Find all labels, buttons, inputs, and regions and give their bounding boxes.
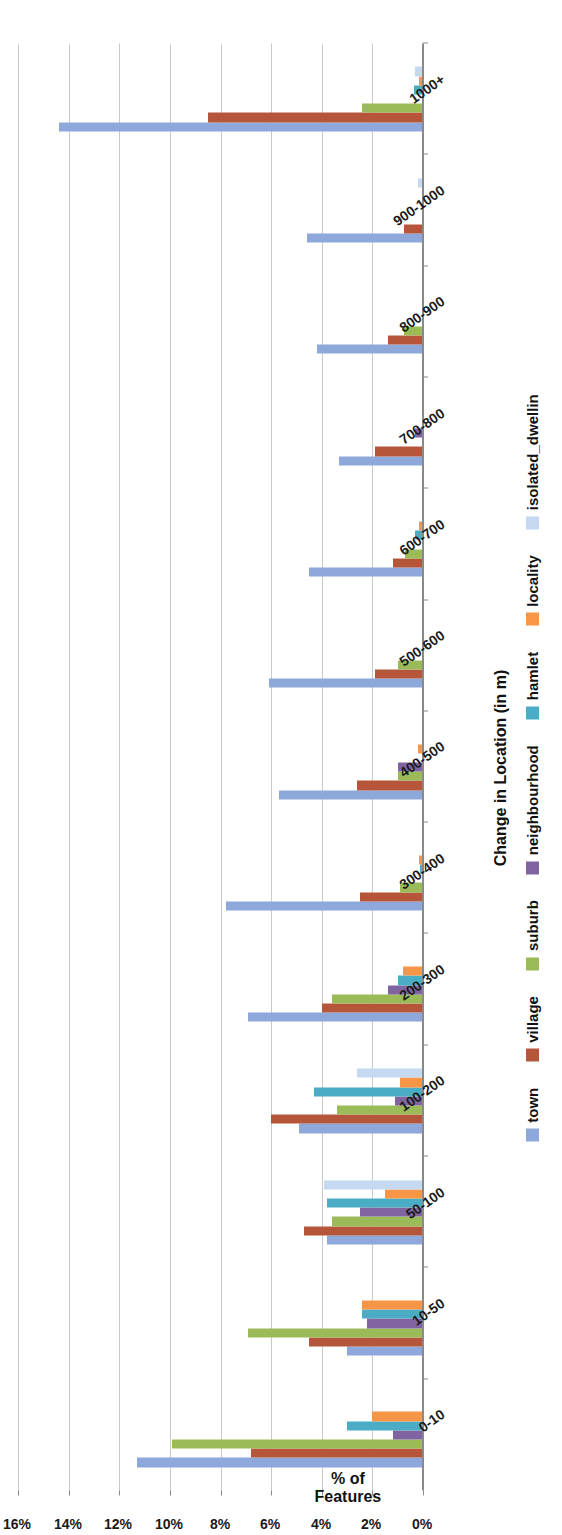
category-tick-mark [423,932,428,933]
bar-group [18,377,423,488]
y-axis-tick-mark [221,1490,222,1495]
legend-swatch-icon [526,516,539,529]
category-tick-mark [423,599,428,600]
bar-group [18,43,423,154]
legend-item-isolated_dwellin[interactable]: isolated_dwellin [524,394,541,529]
chart-page: 0%2%4%6%8%10%12%14%16%0-1010-5050-100100… [0,0,562,1535]
y-axis-tick-label: 14% [45,1515,91,1531]
legend-label: neighbourhood [524,745,541,855]
bar-group [18,933,423,1044]
bar-group [18,711,423,822]
legend-item-town[interactable]: town [524,1087,541,1141]
legend-item-hamlet[interactable]: hamlet [524,651,541,718]
y-axis-tick-label: 8% [197,1515,243,1531]
bar-town [279,790,423,799]
bar-chart-figure: 0%2%4%6%8%10%12%14%16%0-1010-5050-100100… [0,0,562,1535]
bar-group [18,1267,423,1378]
legend-label: town [524,1087,541,1122]
y-axis-tick-mark [119,1490,120,1495]
category-tick-mark [423,1266,428,1267]
bar-town [299,1123,423,1132]
legend-label: isolated_dwellin [524,394,541,510]
legend-swatch-icon [526,612,539,625]
legend-item-village[interactable]: village [524,996,541,1062]
legend-item-locality[interactable]: locality [524,555,541,626]
bar-locality [385,1189,423,1198]
category-tick-mark [423,821,428,822]
legend-item-suburb[interactable]: suburb [524,900,541,970]
category-tick-mark [423,1155,428,1156]
bar-isolated_dwellin [357,1068,423,1077]
legend-label: suburb [524,900,541,951]
category-tick-mark [423,153,428,154]
rotated-figure-wrapper: 0%2%4%6%8%10%12%14%16%0-1010-5050-100100… [0,0,562,1535]
legend-label: locality [524,555,541,607]
category-tick-mark [423,1378,428,1379]
legend-swatch-icon [526,706,539,719]
category-tick-mark [423,42,428,43]
category-tick-mark [423,265,428,266]
legend-swatch-icon [526,861,539,874]
y-axis-tick-label: 0% [399,1515,445,1531]
plot-inner [18,43,423,1490]
bar-group [18,266,423,377]
y-axis-tick-mark [271,1490,272,1495]
y-axis-tick-label: 2% [348,1515,394,1531]
y-axis-tick-mark [423,1490,424,1495]
legend-label: village [524,996,541,1043]
x-axis-title: Change in Location (in m) [492,0,510,1535]
y-axis-title-line1: % of [331,1469,365,1486]
y-axis-tick-label: 10% [146,1515,192,1531]
bar-town [226,901,423,910]
bar-locality [362,1300,423,1309]
y-axis-title: % of Features [288,1469,408,1505]
legend-label: hamlet [524,651,541,699]
legend-swatch-icon [526,957,539,970]
bar-group [18,1156,423,1267]
category-tick-mark [423,487,428,488]
bar-group [18,154,423,265]
y-axis-tick-label: 4% [298,1515,344,1531]
legend-swatch-icon [526,1048,539,1061]
bar-town [269,678,423,687]
y-axis-tick-label: 16% [0,1515,40,1531]
y-axis-tick-mark [170,1490,171,1495]
y-axis-tick-mark [18,1490,19,1495]
y-axis-tick-mark [69,1490,70,1495]
bar-locality [372,1411,423,1420]
bar-group [18,1045,423,1156]
bar-village [404,224,423,233]
category-tick-mark [423,710,428,711]
bar-town [248,1012,423,1021]
y-axis-tick-label: 12% [95,1515,141,1531]
bar-group [18,488,423,599]
bar-isolated_dwellin [324,1180,423,1189]
category-tick-mark [423,376,428,377]
category-tick-mark [423,1044,428,1045]
bar-group [18,822,423,933]
y-axis-title-line2: Features [315,1487,382,1504]
chart-legend: townvillagesuburbneighbourhoodhamletloca… [524,0,541,1535]
y-axis-tick-label: 6% [247,1515,293,1531]
bar-group [18,600,423,711]
plot-area: 0%2%4%6%8%10%12%14%16%0-1010-5050-100100… [18,43,423,1490]
legend-item-neighbourhood[interactable]: neighbourhood [524,745,541,874]
legend-swatch-icon [526,1128,539,1141]
bar-village [304,1226,423,1235]
